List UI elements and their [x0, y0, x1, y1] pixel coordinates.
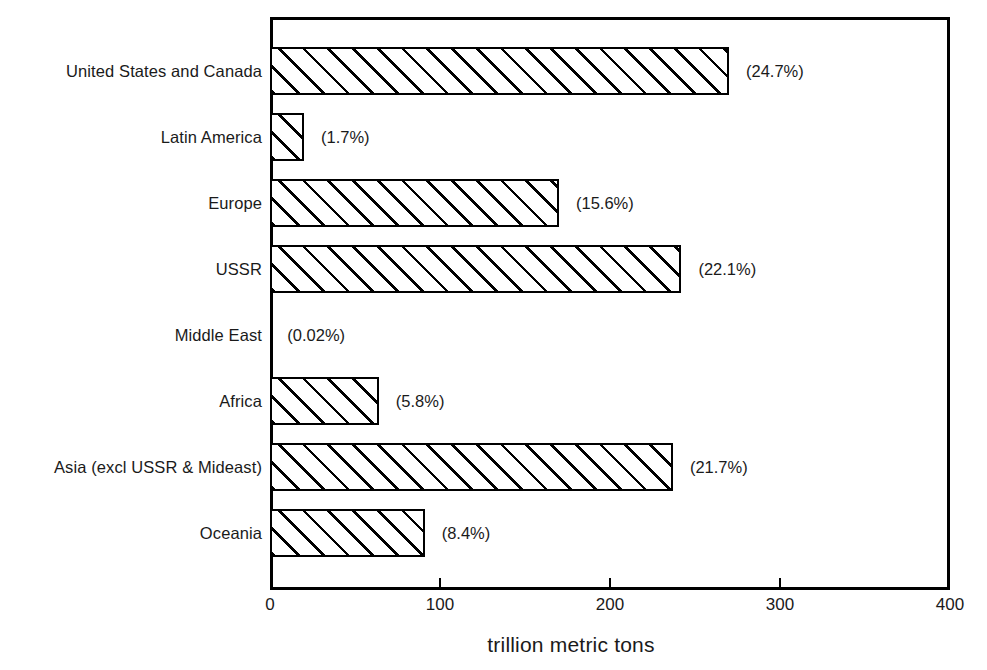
category-label-europe: Europe [0, 195, 262, 212]
category-label-asia-excl-ussr-mideast: Asia (excl USSR & Mideast) [0, 459, 262, 476]
category-label-middle-east: Middle East [0, 327, 262, 344]
x-tick-200 [609, 578, 612, 590]
category-label-oceania: Oceania [0, 525, 262, 542]
category-label-united-states-and-canada: United States and Canada [0, 63, 262, 80]
x-tick-300 [779, 578, 782, 590]
x-tick-label-400: 400 [936, 596, 964, 613]
category-axis-labels: United States and CanadaLatin AmericaEur… [0, 0, 262, 670]
x-tick-label-0: 0 [265, 596, 274, 613]
x-axis-title-text: trillion metric tons [487, 634, 654, 655]
category-label-latin-america: Latin America [0, 129, 262, 146]
x-axis-tick-labels: 0100200300400 [0, 596, 987, 626]
bar-chart: United States and CanadaLatin AmericaEur… [0, 0, 987, 670]
x-axis-title: trillion metric tons [0, 634, 987, 655]
category-label-africa: Africa [0, 393, 262, 410]
x-tick-label-200: 200 [596, 596, 624, 613]
x-tick-label-300: 300 [766, 596, 794, 613]
x-axis-ticks [270, 17, 950, 590]
x-tick-label-100: 100 [426, 596, 454, 613]
x-tick-100 [439, 578, 442, 590]
category-label-ussr: USSR [0, 261, 262, 278]
